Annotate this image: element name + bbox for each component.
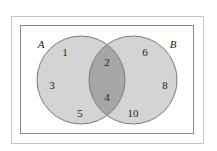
element-5: 5 <box>77 107 83 119</box>
set-a-label: A <box>37 38 45 50</box>
element-8: 8 <box>162 79 168 91</box>
venn-diagram: A B 1 3 5 2 4 6 8 10 <box>0 0 217 151</box>
element-3: 3 <box>49 79 55 91</box>
set-b-label: B <box>170 38 177 50</box>
element-6: 6 <box>142 46 148 58</box>
element-10: 10 <box>128 107 140 119</box>
element-2: 2 <box>104 56 110 68</box>
element-4: 4 <box>104 91 110 103</box>
element-1: 1 <box>62 46 68 58</box>
